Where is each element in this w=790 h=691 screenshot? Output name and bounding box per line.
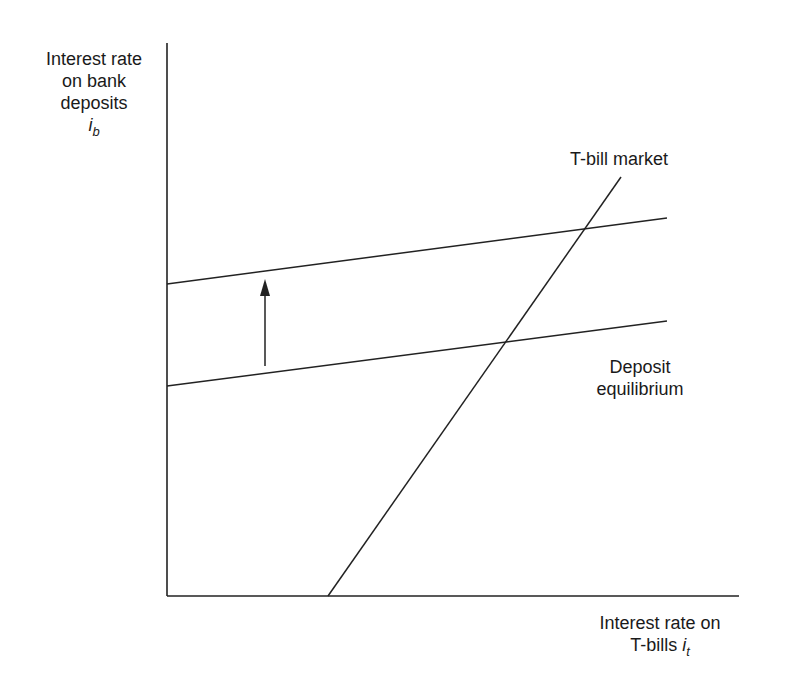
deposit-equilibrium-label: Deposit equilibrium: [570, 356, 710, 400]
y-axis-label: Interest rate on bank deposits ib: [20, 48, 168, 143]
x-axis-label: Interest rate on T-bills it: [580, 612, 740, 663]
shift-arrow-icon: [260, 279, 270, 366]
tbill-market-label: T-bill market: [570, 148, 710, 170]
deposit-equilibrium-line-shifted: [167, 218, 667, 284]
